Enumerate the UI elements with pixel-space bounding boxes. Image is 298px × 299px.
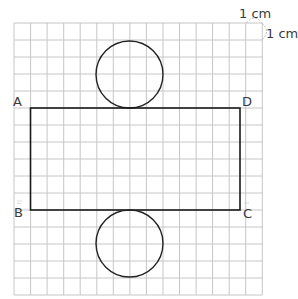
- unit-label-vertical: 1 cm: [266, 26, 298, 41]
- vertex-label-d: D: [242, 94, 252, 109]
- vertex-label-a: A: [13, 94, 22, 109]
- vertex-label-b: B: [14, 205, 23, 220]
- unit-label-horizontal: 1 cm: [239, 6, 271, 21]
- vertex-label-c: C: [243, 206, 252, 221]
- faint-mark-b: [17, 201, 22, 204]
- grid-paper: [14, 23, 262, 295]
- cylinder-net-diagram: 1 cm 1 cm A D B C: [0, 0, 298, 299]
